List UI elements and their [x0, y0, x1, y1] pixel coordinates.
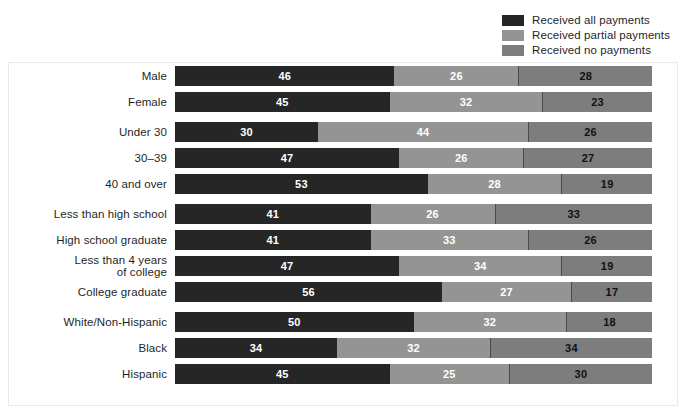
bar-track: 452530: [175, 364, 652, 384]
category-label: High school graduate: [0, 230, 175, 250]
bar-row: 40 and over532819: [0, 174, 687, 194]
bar-segment-all: 50: [175, 312, 414, 332]
category-label-line: Under 30: [119, 126, 167, 138]
bar-segment-partial: 26: [371, 204, 495, 224]
bar-segment-all: 45: [175, 92, 390, 112]
category-label: Less than 4 yearsof college: [0, 256, 175, 276]
bar-row: Hispanic452530: [0, 364, 687, 384]
bar-segment-none: 27: [523, 148, 652, 168]
legend-label-all: Received all payments: [532, 14, 650, 26]
bar-track: 343234: [175, 338, 652, 358]
category-label-line: Less than 4 years: [75, 254, 167, 266]
bar-segment-none: 18: [566, 312, 652, 332]
category-label-line: White/Non-Hispanic: [64, 316, 167, 328]
category-label-line: Hispanic: [122, 368, 167, 380]
bar-segment-all: 53: [175, 174, 428, 194]
bar-segment-partial: 32: [390, 92, 543, 112]
legend-item-partial: Received partial payments: [502, 28, 687, 42]
category-label: Female: [0, 92, 175, 112]
bar-segment-partial: 26: [399, 148, 523, 168]
bar-row: Less than high school412633: [0, 204, 687, 224]
category-label: College graduate: [0, 282, 175, 302]
bar-segment-partial: 28: [428, 174, 562, 194]
bar-segment-none: 19: [561, 256, 652, 276]
bar-track: 562717: [175, 282, 652, 302]
category-label: Male: [0, 66, 175, 86]
category-label: 30–39: [0, 148, 175, 168]
bar-segment-partial: 27: [442, 282, 571, 302]
legend-label-partial: Received partial payments: [532, 29, 670, 41]
bar-segment-all: 47: [175, 148, 399, 168]
category-label: Hispanic: [0, 364, 175, 384]
bar-row: Under 30304426: [0, 122, 687, 142]
bar-row: Male462628: [0, 66, 687, 86]
bar-segment-none: 33: [495, 204, 652, 224]
bar-segment-partial: 33: [371, 230, 528, 250]
bar-segment-all: 46: [175, 66, 394, 86]
category-label-line: Female: [128, 96, 167, 108]
bar-segment-none: 26: [528, 122, 652, 142]
bar-track: 412633: [175, 204, 652, 224]
category-label-line: of college: [117, 266, 167, 278]
bar-segment-partial: 44: [318, 122, 528, 142]
bar-segment-none: 28: [518, 66, 652, 86]
bar-track: 462628: [175, 66, 652, 86]
bar-track: 472627: [175, 148, 652, 168]
category-label-line: 40 and over: [105, 178, 167, 190]
legend-item-none: Received no payments: [502, 43, 687, 57]
category-label-line: College graduate: [78, 286, 167, 298]
bar-track: 473419: [175, 256, 652, 276]
bar-segment-partial: 32: [337, 338, 490, 358]
legend-label-none: Received no payments: [532, 44, 651, 56]
category-label-line: Male: [142, 70, 167, 82]
bar-segment-all: 45: [175, 364, 390, 384]
bar-segment-all: 47: [175, 256, 399, 276]
bar-row: Female453223: [0, 92, 687, 112]
bar-segment-all: 30: [175, 122, 318, 142]
bar-row: Less than 4 yearsof college473419: [0, 256, 687, 276]
bar-segment-partial: 32: [414, 312, 567, 332]
stacked-bar-chart: Male462628Female453223Under 3030442630–3…: [0, 66, 687, 390]
bar-row: College graduate562717: [0, 282, 687, 302]
category-label: 40 and over: [0, 174, 175, 194]
bar-segment-all: 34: [175, 338, 337, 358]
bar-track: 532819: [175, 174, 652, 194]
bar-segment-none: 19: [561, 174, 652, 194]
bar-segment-partial: 26: [394, 66, 518, 86]
legend-swatch-partial: [502, 30, 524, 41]
bar-track: 503218: [175, 312, 652, 332]
bar-segment-all: 41: [175, 230, 371, 250]
legend-item-all: Received all payments: [502, 13, 687, 27]
category-label-line: Black: [138, 342, 167, 354]
bar-row: Black343234: [0, 338, 687, 358]
category-label-line: 30–39: [135, 152, 167, 164]
bar-segment-partial: 34: [399, 256, 561, 276]
bar-row: White/Non-Hispanic503218: [0, 312, 687, 332]
bar-segment-none: 17: [571, 282, 652, 302]
chart-legend: Received all paymentsReceived partial pa…: [502, 13, 687, 58]
category-label-line: Less than high school: [54, 208, 167, 220]
legend-swatch-none: [502, 45, 524, 56]
bar-track: 453223: [175, 92, 652, 112]
category-label: Black: [0, 338, 175, 358]
bar-segment-partial: 25: [390, 364, 509, 384]
bar-segment-none: 26: [528, 230, 652, 250]
bar-segment-all: 41: [175, 204, 371, 224]
legend-swatch-all: [502, 15, 524, 26]
bar-row: High school graduate413326: [0, 230, 687, 250]
bar-row: 30–39472627: [0, 148, 687, 168]
bar-segment-none: 34: [490, 338, 652, 358]
bar-segment-all: 56: [175, 282, 442, 302]
bar-track: 413326: [175, 230, 652, 250]
category-label: White/Non-Hispanic: [0, 312, 175, 332]
category-label: Under 30: [0, 122, 175, 142]
bar-segment-none: 23: [542, 92, 652, 112]
category-label-line: High school graduate: [56, 234, 167, 246]
bar-segment-none: 30: [509, 364, 652, 384]
bar-track: 304426: [175, 122, 652, 142]
category-label: Less than high school: [0, 204, 175, 224]
